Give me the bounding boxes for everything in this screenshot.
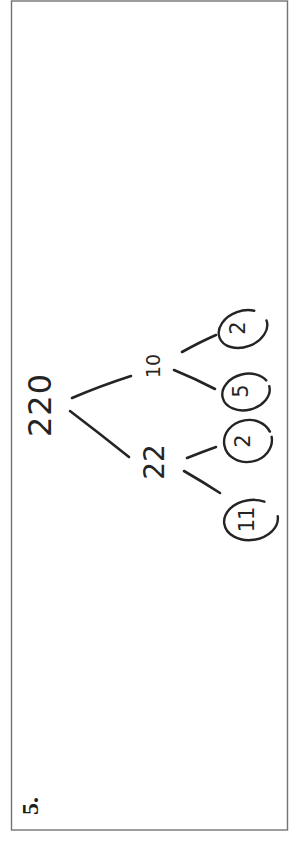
leaf-2-of-10-label: 2 bbox=[226, 321, 250, 334]
tree-edge-10-5 bbox=[174, 370, 215, 389]
tree-edge-22-2 bbox=[187, 447, 216, 458]
node-10-label: 10 bbox=[142, 354, 164, 378]
leaf-11-label: 11 bbox=[235, 508, 259, 533]
node-22-label: 22 bbox=[138, 444, 171, 480]
leaf-circles bbox=[213, 304, 280, 544]
root-node-label: 220 bbox=[21, 373, 59, 437]
leaf-2-of-22-label: 2 bbox=[231, 434, 255, 447]
tree-edge-220-10 bbox=[72, 376, 131, 398]
tree-edge-22-11 bbox=[184, 471, 220, 493]
leaf-5-label: 5 bbox=[229, 384, 253, 397]
scanned-worksheet-page: 5. 220 10 22 2 5 2 11 bbox=[0, 0, 297, 841]
tree-edge-10-2 bbox=[182, 335, 216, 352]
tree-edge-220-22 bbox=[70, 411, 129, 457]
factor-tree-figure: 5. 220 10 22 2 5 2 11 bbox=[0, 0, 297, 841]
problem-number-label: 5. bbox=[17, 797, 43, 815]
